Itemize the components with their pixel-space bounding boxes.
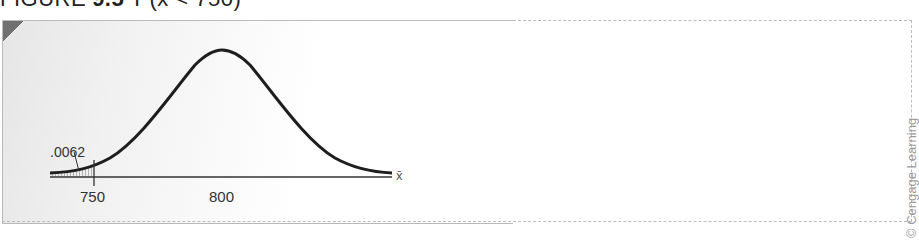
probability-label: .0062	[50, 144, 85, 160]
normal-curve-chart	[0, 0, 919, 245]
tick-label-750: 750	[80, 188, 105, 205]
normal-curve	[50, 50, 392, 173]
copyright-credit: © Cengage Learning	[904, 118, 919, 238]
tick-label-800: 800	[209, 188, 234, 205]
x-axis-label: x̄	[396, 168, 403, 183]
